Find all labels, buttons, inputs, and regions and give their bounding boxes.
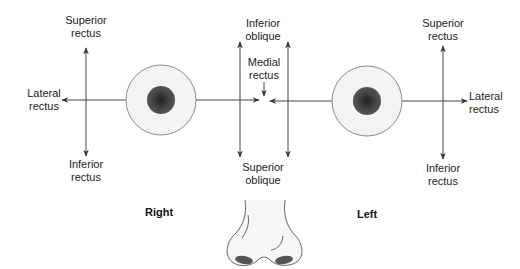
right-lateral-rectus-label: Lateral rectus xyxy=(24,87,64,113)
medial-rectus-label: Medial rectus xyxy=(242,56,286,82)
left-eye-group xyxy=(270,46,467,159)
label-line: Inferior xyxy=(417,162,469,175)
label-line: Superior xyxy=(417,17,469,30)
label-line: rectus xyxy=(242,69,286,82)
label-line: Inferior xyxy=(60,158,112,171)
label-line: rectus xyxy=(469,103,515,116)
inferior-oblique-label: Inferior oblique xyxy=(238,17,288,43)
label-line: Lateral xyxy=(469,90,515,103)
right-superior-rectus-label: Superior rectus xyxy=(60,14,112,40)
label-line: rectus xyxy=(60,171,112,184)
label-line: rectus xyxy=(417,30,469,43)
label-line: rectus xyxy=(417,175,469,188)
right-eye-group xyxy=(62,48,259,156)
label-line: Superior xyxy=(236,161,290,174)
left-superior-rectus-label: Superior rectus xyxy=(417,17,469,43)
label-line: Lateral xyxy=(24,87,64,100)
right-eye-iris xyxy=(147,86,175,114)
left-lateral-rectus-label: Lateral rectus xyxy=(469,90,515,116)
left-side-label: Left xyxy=(357,208,377,220)
label-line: oblique xyxy=(238,30,288,43)
label-line: rectus xyxy=(24,100,64,113)
superior-oblique-label: Superior oblique xyxy=(236,161,290,187)
label-line: Inferior xyxy=(238,17,288,30)
nose-illustration xyxy=(227,200,302,266)
left-eye-iris xyxy=(353,87,381,115)
label-line: Superior xyxy=(60,14,112,27)
label-line: rectus xyxy=(60,27,112,40)
label-line: Medial xyxy=(242,56,286,69)
right-side-label: Right xyxy=(145,206,173,218)
right-inferior-rectus-label: Inferior rectus xyxy=(60,158,112,184)
label-line: oblique xyxy=(236,174,290,187)
left-inferior-rectus-label: Inferior rectus xyxy=(417,162,469,188)
